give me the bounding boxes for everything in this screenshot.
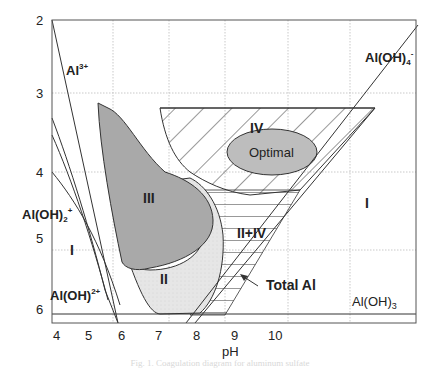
svg-text:6: 6: [118, 328, 125, 343]
species-al3: Al3+: [66, 62, 88, 78]
species-aloh2: Al(OH)2+: [22, 206, 73, 224]
species-aloh3: Al(OH)3: [352, 294, 397, 311]
svg-text:9: 9: [231, 328, 238, 343]
region-label-ii-iv: II+IV: [237, 225, 267, 241]
svg-text:10: 10: [268, 328, 282, 343]
svg-text:6: 6: [36, 302, 43, 317]
svg-text:7: 7: [155, 328, 162, 343]
species-aloh4: Al(OH)4-: [365, 49, 414, 67]
svg-text:3: 3: [36, 86, 43, 101]
svg-text:8: 8: [193, 328, 200, 343]
x-tick-labels: 4 5 6 7 8 9 10: [53, 328, 282, 343]
svg-text:4: 4: [53, 328, 60, 343]
figure-caption: Fig. 1. Coagulation diagram for aluminum…: [0, 358, 440, 368]
optimal-label: Optimal: [249, 145, 294, 160]
region-label-ii: II: [160, 271, 168, 287]
region-label-iii: III: [143, 190, 155, 206]
svg-text:4: 4: [36, 165, 43, 180]
coagulation-diagram: 2 3 4 5 6 4 5 6 7 8 9 10 pH IV III II II…: [0, 0, 440, 374]
species-aloh: Al(OH)2+: [50, 287, 101, 303]
svg-text:5: 5: [85, 328, 92, 343]
region-label-i-right: I: [365, 195, 369, 211]
svg-text:2: 2: [36, 13, 43, 28]
x-axis-label: pH: [222, 344, 239, 359]
region-label-iv: IV: [250, 120, 264, 136]
y-tick-labels: 2 3 4 5 6: [36, 13, 43, 317]
svg-text:5: 5: [36, 231, 43, 246]
total-al-label: Total Al: [266, 277, 316, 293]
region-label-i-left: I: [70, 242, 74, 258]
